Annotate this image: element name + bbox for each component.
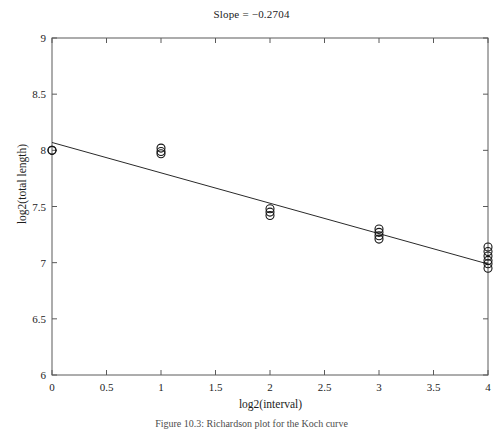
x-tick-label: 2.5 bbox=[318, 381, 332, 393]
x-tick-label: 2 bbox=[267, 381, 273, 393]
y-tick-label: 7 bbox=[41, 257, 47, 269]
x-tick-label: 1.5 bbox=[209, 381, 223, 393]
x-tick-label: 0.5 bbox=[100, 381, 114, 393]
figure-container: Slope = −0.2704 00.511.522.533.54 66.577… bbox=[0, 0, 503, 429]
x-tick-label: 4 bbox=[485, 381, 491, 393]
y-tick-label: 7.5 bbox=[32, 201, 46, 213]
x-tick-label: 1 bbox=[158, 381, 164, 393]
scatter-plot-canvas bbox=[0, 0, 503, 429]
y-tick-label: 8.5 bbox=[32, 88, 46, 100]
x-tick-label: 0 bbox=[49, 381, 55, 393]
x-axis-label: log2(interval) bbox=[52, 398, 489, 410]
y-tick-label: 6 bbox=[41, 369, 47, 381]
x-tick-label: 3 bbox=[376, 381, 382, 393]
plot-border bbox=[52, 38, 488, 375]
y-axis-label: log2(total length) bbox=[16, 114, 28, 254]
y-tick-label: 9 bbox=[41, 32, 47, 44]
y-tick-label: 8 bbox=[41, 144, 47, 156]
figure-caption: Figure 10.3: Richardson plot for the Koc… bbox=[0, 418, 503, 429]
plot-frame bbox=[52, 38, 488, 375]
x-tick-label: 3.5 bbox=[427, 381, 441, 393]
y-tick-label: 6.5 bbox=[32, 313, 46, 325]
